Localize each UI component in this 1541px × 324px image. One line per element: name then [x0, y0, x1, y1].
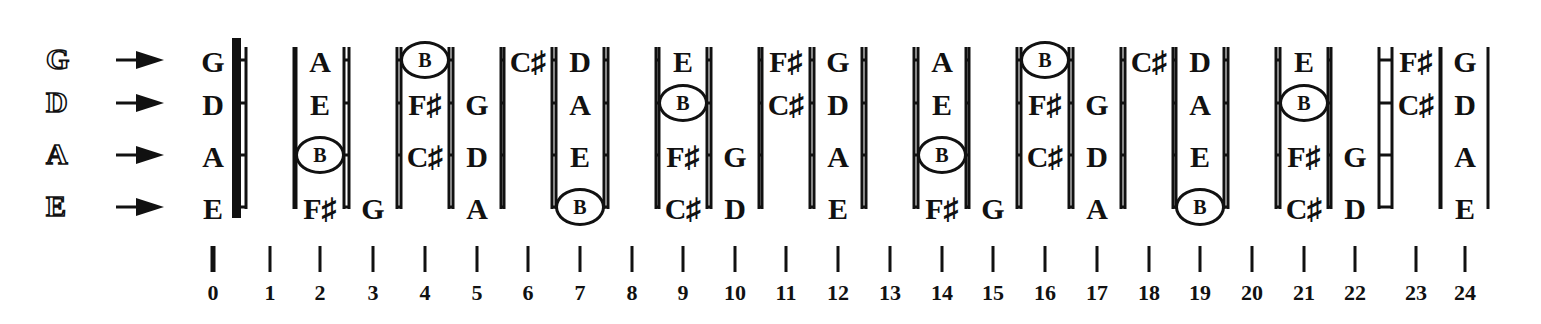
note-fsharp-fret-16: F♯: [1028, 90, 1061, 120]
highlighted-note-b-fret-2: B: [295, 136, 345, 174]
note-g-fret-24: G: [1453, 47, 1476, 77]
note-e-fret-2: E: [310, 90, 330, 120]
note-fsharp-fret-14: F♯: [925, 194, 958, 224]
fret-number-24: 24: [1454, 282, 1476, 304]
open-string-label-a: A: [46, 139, 68, 169]
fret-tick-10: [734, 246, 737, 272]
note-g-fret-12: G: [826, 47, 849, 77]
highlighted-note-b-fret-16: B: [1020, 41, 1070, 79]
note-csharp-fret-4: C♯: [407, 142, 444, 172]
fret-number-9: 9: [678, 282, 689, 304]
fret-tick-8: [631, 246, 634, 272]
note-a-fret-19: A: [1189, 90, 1211, 120]
fret-number-13: 13: [879, 282, 901, 304]
note-csharp-fret-18: C♯: [1131, 47, 1168, 77]
fret-tick-15: [992, 246, 995, 272]
note-csharp-fret-9: C♯: [665, 194, 702, 224]
fret-tick-13: [889, 246, 892, 272]
highlighted-note-b-fret-21: B: [1279, 84, 1329, 122]
note-g-fret-17: G: [1085, 90, 1108, 120]
arrow-icon: [136, 146, 164, 164]
note-csharp-fret-6: C♯: [510, 47, 547, 77]
note-d-fret-22: D: [1344, 194, 1366, 224]
fret-number-15: 15: [982, 282, 1004, 304]
fret-number-2: 2: [315, 282, 326, 304]
note-a-fret-14: A: [931, 47, 953, 77]
fret-tick-21: [1303, 246, 1306, 272]
note-a-fret-5: A: [466, 194, 488, 224]
note-e-fret-21: E: [1294, 47, 1314, 77]
fret-tick-12: [837, 246, 840, 272]
fret-number-0: 0: [208, 282, 219, 304]
fret-number-4: 4: [420, 282, 431, 304]
note-fsharp-fret-23: F♯: [1399, 47, 1432, 77]
fret-tick-19: [1199, 246, 1202, 272]
note-g-fret-10: G: [723, 142, 746, 172]
note-csharp-fret-16: C♯: [1027, 142, 1064, 172]
note-csharp-fret-23: C♯: [1398, 90, 1435, 120]
note-d-fret-0: D: [202, 90, 224, 120]
fret-tick-16: [1044, 246, 1047, 272]
note-d-fret-5: D: [466, 142, 488, 172]
fret-number-21: 21: [1293, 282, 1315, 304]
note-a-fret-7: A: [569, 90, 591, 120]
open-string-label-e: E: [46, 191, 66, 221]
fret-tick-4: [424, 246, 427, 272]
note-d-fret-24: D: [1454, 90, 1476, 120]
fret-number-1: 1: [265, 282, 276, 304]
note-csharp-fret-11: C♯: [768, 90, 805, 120]
fret-tick-14: [941, 246, 944, 272]
fret-number-23: 23: [1405, 282, 1427, 304]
fret-number-14: 14: [931, 282, 953, 304]
fret-number-10: 10: [724, 282, 746, 304]
note-g-fret-5: G: [465, 90, 488, 120]
note-a-fret-0: A: [202, 142, 224, 172]
note-a-fret-2: A: [309, 47, 331, 77]
note-d-fret-19: D: [1189, 47, 1211, 77]
note-a-fret-24: A: [1454, 142, 1476, 172]
fret-number-16: 16: [1034, 282, 1056, 304]
highlighted-note-b-fret-7: B: [555, 188, 605, 226]
note-e-fret-24: E: [1455, 194, 1475, 224]
note-fsharp-fret-4: F♯: [408, 90, 441, 120]
fret-tick-23: [1415, 246, 1418, 272]
highlighted-note-b-fret-4: B: [400, 41, 450, 79]
note-g-fret-3: G: [361, 194, 384, 224]
note-d-fret-17: D: [1086, 142, 1108, 172]
fret-tick-11: [785, 246, 788, 272]
note-e-fret-19: E: [1190, 142, 1210, 172]
fret-number-7: 7: [575, 282, 586, 304]
arrow-icon: [136, 94, 164, 112]
note-e-fret-12: E: [828, 194, 848, 224]
fret-number-18: 18: [1138, 282, 1160, 304]
note-g-fret-22: G: [1343, 142, 1366, 172]
fret-tick-17: [1096, 246, 1099, 272]
fret-tick-18: [1148, 246, 1151, 272]
nut: [232, 38, 241, 218]
fret-tick-1: [269, 246, 272, 272]
bass-fretboard-diagram: GDAEGABC♯DEF♯GABC♯DEF♯GDEF♯GABC♯DEF♯GABC…: [0, 0, 1541, 324]
note-csharp-fret-21: C♯: [1286, 194, 1323, 224]
open-string-label-d: D: [46, 87, 68, 117]
fret-number-20: 20: [1241, 282, 1263, 304]
fret-number-22: 22: [1344, 282, 1366, 304]
fret-number-3: 3: [368, 282, 379, 304]
fret-number-5: 5: [472, 282, 483, 304]
highlighted-note-b-fret-19: B: [1175, 188, 1225, 226]
fret-number-17: 17: [1086, 282, 1108, 304]
note-d-fret-12: D: [827, 90, 849, 120]
note-g-fret-0: G: [201, 47, 224, 77]
fret-tick-9: [682, 246, 685, 272]
note-e-fret-14: E: [932, 90, 952, 120]
fret-tick-24: [1464, 246, 1467, 272]
fret-tick-5: [476, 246, 479, 272]
note-d-fret-7: D: [569, 47, 591, 77]
highlighted-note-b-fret-9: B: [658, 84, 708, 122]
note-a-fret-12: A: [827, 142, 849, 172]
note-fsharp-fret-2: F♯: [303, 194, 336, 224]
fret-number-6: 6: [523, 282, 534, 304]
fret-tick-22: [1354, 246, 1357, 272]
fret-number-12: 12: [827, 282, 849, 304]
arrow-icon: [136, 51, 164, 69]
fret-tick-7: [579, 246, 582, 272]
